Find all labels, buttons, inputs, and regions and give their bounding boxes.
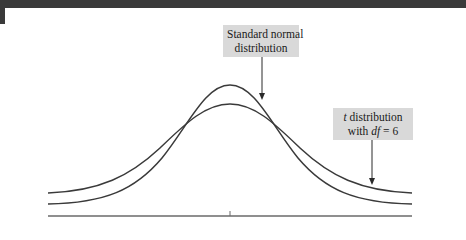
standard-normal-curve xyxy=(48,85,412,204)
t-distribution-label-line2: with df = 6 xyxy=(337,124,409,138)
with-text: with xyxy=(348,125,371,137)
t-label-text: distribution xyxy=(347,111,403,123)
t-distribution-label-line1: t distribution xyxy=(337,110,409,124)
standard-normal-label-line1: Standard normal xyxy=(227,27,295,41)
df-value: = 6 xyxy=(380,125,398,137)
standard-normal-label: Standard normal distribution xyxy=(223,25,299,57)
standard-normal-label-line2: distribution xyxy=(227,41,295,55)
t-distribution-label: t distribution with df = 6 xyxy=(333,108,413,140)
standard-normal-arrowhead-icon xyxy=(259,93,265,100)
t-distribution-arrowhead-icon xyxy=(369,178,375,185)
df-symbol: df xyxy=(371,125,380,137)
